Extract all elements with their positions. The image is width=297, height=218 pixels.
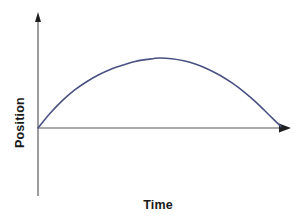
x-axis-label: Time <box>118 198 198 212</box>
y-axis-arrowhead-icon <box>35 12 41 22</box>
y-axis-label: Position <box>0 108 48 148</box>
position-vs-time-figure: Position Time <box>0 0 297 218</box>
x-axis-arrowhead-icon <box>279 124 291 133</box>
position-curve <box>38 58 281 128</box>
